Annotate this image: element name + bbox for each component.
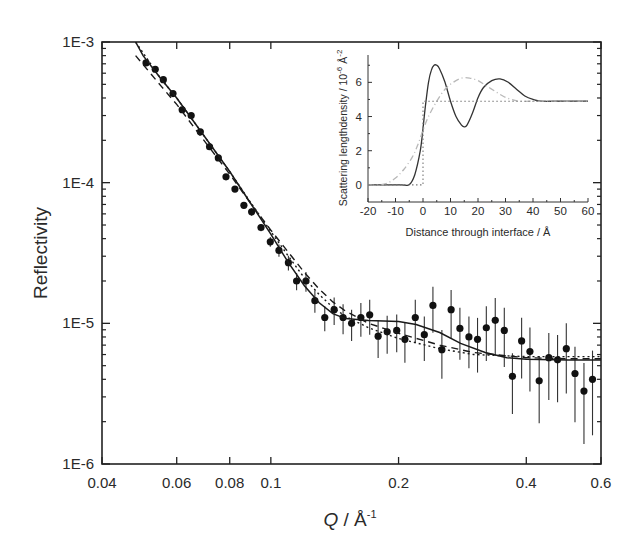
data-point: [321, 314, 328, 321]
data-point: [580, 387, 587, 394]
data-point: [401, 336, 408, 343]
inset-y-tick-label: 4: [356, 111, 363, 123]
inset-x-tick-label: 50: [554, 205, 567, 217]
data-point: [267, 238, 274, 245]
y-tick-label: 1E-5: [62, 314, 94, 331]
data-point: [563, 345, 570, 352]
data-point: [240, 202, 247, 209]
inset-x-tick-label: 0: [420, 205, 426, 217]
inset-y-axis-label: Scattering lengthdensity / 10-6 Å-2: [335, 49, 349, 206]
data-point: [257, 224, 264, 231]
data-point: [465, 333, 472, 340]
x-tick-label: 0.6: [591, 474, 612, 491]
data-point: [518, 337, 525, 344]
x-tick-label: 0.4: [516, 474, 537, 491]
y-tick-label: 1E-6: [62, 455, 94, 472]
inset-x-tick-label: 40: [527, 205, 540, 217]
x-tick-label: 0.06: [162, 474, 191, 491]
x-tick-label: 0.1: [260, 474, 281, 491]
inset-x-tick-label: -20: [360, 205, 377, 217]
data-point: [429, 302, 436, 309]
data-point: [536, 377, 543, 384]
inset-y-tick-label: 6: [356, 76, 362, 88]
x-tick-label: 0.2: [388, 474, 409, 491]
inset-x-axis-label: Distance through interface / Å: [406, 226, 552, 238]
y-tick-label: 1E-4: [62, 174, 94, 191]
data-point: [526, 348, 533, 355]
data-point: [366, 311, 373, 318]
data-point: [375, 333, 382, 340]
inset-y-tick-label: 2: [356, 145, 362, 157]
data-point: [589, 376, 596, 383]
reflectivity-chart: 0.040.060.080.10.20.40.61E-61E-51E-41E-3…: [0, 0, 640, 553]
data-point: [231, 186, 238, 193]
inset-y-tick-label: 0: [356, 179, 362, 191]
data-point: [483, 324, 490, 331]
inset-profile-dash-dot-gray: [368, 78, 588, 185]
data-point: [222, 173, 229, 180]
inset-profile-dotted: [368, 101, 588, 185]
data-point: [421, 331, 428, 338]
inset-x-tick-label: 30: [499, 205, 512, 217]
y-axis-label: Reflectivity: [30, 207, 51, 299]
chart-canvas: 0.040.060.080.10.20.40.61E-61E-51E-41E-3…: [0, 0, 640, 553]
inset-x-tick-label: -10: [387, 205, 404, 217]
inset-x-tick-label: 10: [444, 205, 457, 217]
inset-profile-solid: [368, 65, 588, 186]
data-point: [448, 306, 455, 313]
x-tick-label: 0.04: [87, 474, 116, 491]
inset-plot: -20-1001020304050600246Distance through …: [335, 49, 594, 238]
x-tick-label: 0.08: [215, 474, 244, 491]
data-point: [501, 327, 508, 334]
data-point: [571, 370, 578, 377]
inset-x-tick-label: 20: [472, 205, 485, 217]
data-point: [474, 336, 481, 343]
data-point: [509, 373, 516, 380]
data-point: [456, 325, 463, 332]
y-tick-label: 1E-3: [62, 33, 94, 50]
data-point: [492, 317, 499, 324]
data-point: [412, 314, 419, 321]
main-plot: 0.040.060.080.10.20.40.61E-61E-51E-41E-3…: [30, 33, 611, 530]
x-axis-label: Q / Å-1: [323, 508, 376, 530]
inset-x-tick-label: 60: [582, 205, 595, 217]
